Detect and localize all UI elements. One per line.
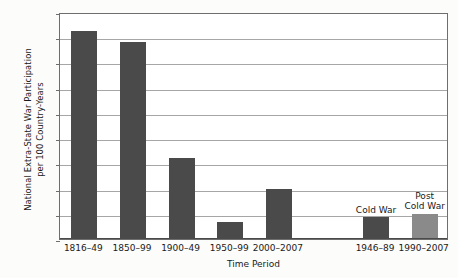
bar xyxy=(217,222,243,239)
bar xyxy=(363,217,389,239)
x-axis-tick-label: 1990–2007 xyxy=(391,242,457,254)
bar xyxy=(120,42,146,239)
x-axis-tick-labels: 1816–491850–991900–491950–992000–2007194… xyxy=(59,242,448,256)
bar xyxy=(71,31,97,239)
bar xyxy=(266,189,292,239)
x-axis-line xyxy=(60,238,447,239)
y-axis-title: National Extra-State War Participation p… xyxy=(23,10,46,250)
y-axis-title-line-1: National Extra-State War Participation xyxy=(23,10,35,250)
annotation-post-cold-war-line-1: Post xyxy=(385,191,458,202)
x-axis-tick-label: 2000–2007 xyxy=(245,242,311,254)
bar xyxy=(169,158,195,239)
bar xyxy=(412,214,438,239)
plot-area: 4.543.532.521.510.50 Cold War Post Cold … xyxy=(59,13,448,240)
annotation-post-cold-war: Post Cold War xyxy=(385,191,458,212)
bar-chart: National Extra-State War Participation p… xyxy=(0,0,458,278)
annotation-post-cold-war-line-2: Cold War xyxy=(385,201,458,212)
y-axis-title-line-2: per 100 Country-Years xyxy=(34,10,46,250)
x-axis-title: Time Period xyxy=(59,259,448,269)
